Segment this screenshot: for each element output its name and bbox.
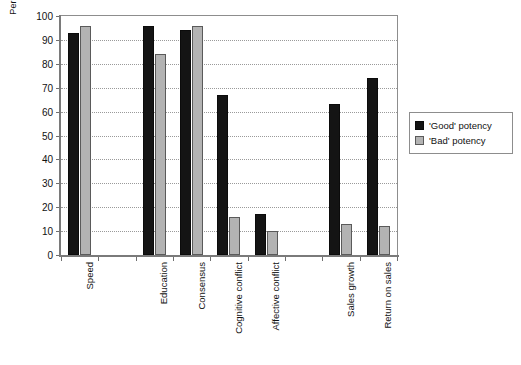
legend-label-good: 'Good' potency: [429, 120, 492, 131]
x-axis-labels: SpeedEducationConsensusCognitive conflic…: [60, 260, 398, 365]
x-category-label: Affective conflict: [270, 260, 286, 365]
bar-bad: [192, 26, 203, 255]
bar-good: [143, 26, 154, 255]
y-tick-label: 70: [42, 82, 53, 93]
bar-bad: [155, 54, 166, 255]
legend-swatch-good-icon: [415, 121, 424, 130]
bar-bad: [229, 217, 240, 255]
bar-bad: [80, 26, 91, 255]
x-category-label: Cognitive conflict: [233, 260, 249, 365]
bar-group: [322, 16, 359, 255]
bar-good: [255, 214, 266, 255]
bar-group: [98, 16, 135, 255]
legend-label-bad: 'Bad' potency: [429, 135, 485, 146]
x-category-label: Sales growth: [345, 260, 361, 365]
y-tick-label: 50: [42, 130, 53, 141]
bar-good: [180, 30, 191, 255]
bar-group: [210, 16, 247, 255]
legend-swatch-bad-icon: [415, 136, 424, 145]
bar-bad: [267, 231, 278, 255]
bar-good: [329, 104, 340, 255]
x-axis-line: [59, 255, 399, 257]
legend-item-good: 'Good' potency: [415, 118, 507, 133]
y-axis-title-text: Percentile rank for total sample: [8, 0, 18, 46]
x-category-label: Education: [158, 260, 174, 365]
chart-legend: 'Good' potency 'Bad' potency: [409, 112, 513, 154]
bar-group: [173, 16, 210, 255]
y-tick-label: 20: [42, 202, 53, 213]
y-tick-label: 30: [42, 178, 53, 189]
y-tick-label: 90: [42, 34, 53, 45]
bar-bad: [379, 226, 390, 255]
bar-good: [217, 95, 228, 255]
legend-item-bad: 'Bad' potency: [415, 133, 507, 148]
y-tick-label: 10: [42, 226, 53, 237]
y-tick-label: 100: [36, 11, 53, 22]
bar-group: [285, 16, 322, 255]
bar-bad: [341, 224, 352, 255]
bar-group: [61, 16, 98, 255]
y-axis-line: [59, 15, 61, 257]
bar-good: [68, 33, 79, 255]
x-category-label: Consensus: [196, 260, 212, 365]
plot-area: 0102030405060708090100: [60, 15, 398, 256]
y-axis-title: Percentile rank for total sample: [8, 0, 26, 46]
y-tick-label: 60: [42, 106, 53, 117]
x-category-label: Speed: [84, 260, 100, 365]
x-category-label: Return on sales: [382, 260, 398, 365]
bar-good: [367, 78, 378, 255]
bar-group: [248, 16, 285, 255]
y-tick-label: 80: [42, 58, 53, 69]
plot-inner: 0102030405060708090100: [61, 16, 397, 255]
bar-chart: Percentile rank for total sample 0102030…: [0, 0, 521, 365]
y-tick-label: 0: [47, 250, 53, 261]
bars-layer: [61, 16, 397, 255]
bar-group: [136, 16, 173, 255]
bar-group: [360, 16, 397, 255]
y-tick-label: 40: [42, 154, 53, 165]
